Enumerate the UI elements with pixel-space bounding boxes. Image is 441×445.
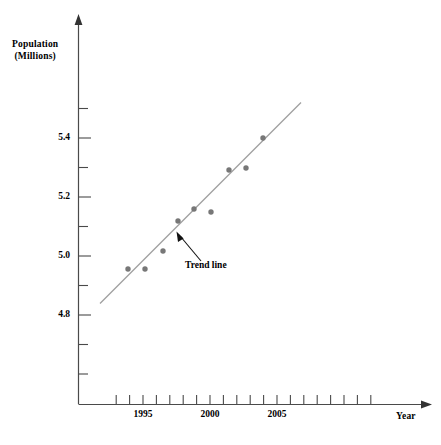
y-tick-label-5.2: 5.2 [38, 191, 70, 201]
data-point [142, 266, 147, 271]
population-trend-chart: Population (Millions) Year 5.4 5.2 5.0 4… [0, 0, 441, 445]
data-point [260, 135, 265, 140]
trend-line-annotation-label: Trend line [185, 260, 227, 270]
x-axis-title: Year [396, 410, 416, 422]
y-axis-title-line2: (Millions) [12, 50, 58, 62]
y-tick-label-5.4: 5.4 [38, 132, 70, 142]
data-point [226, 167, 231, 172]
y-axis-ticks [79, 109, 92, 375]
data-points [125, 135, 265, 271]
data-point [243, 165, 248, 170]
y-tick-label-5.0: 5.0 [38, 250, 70, 260]
x-axis [79, 401, 433, 409]
x-tick-label-2005: 2005 [257, 409, 297, 419]
x-tick-label-2000: 2000 [190, 409, 230, 419]
data-point [160, 248, 165, 253]
y-axis-title-line1: Population [12, 38, 58, 50]
y-tick-label-4.8: 4.8 [38, 309, 70, 319]
y-axis [75, 14, 83, 404]
chart-canvas [0, 0, 441, 445]
trend-line-arrow [177, 232, 202, 262]
trend-line [100, 103, 301, 304]
data-point [175, 218, 180, 223]
x-axis-ticks [116, 395, 371, 405]
x-tick-label-1995: 1995 [123, 409, 163, 419]
data-point [125, 266, 130, 271]
y-axis-title: Population (Millions) [12, 38, 58, 62]
data-point [208, 209, 213, 214]
data-point [191, 206, 196, 211]
